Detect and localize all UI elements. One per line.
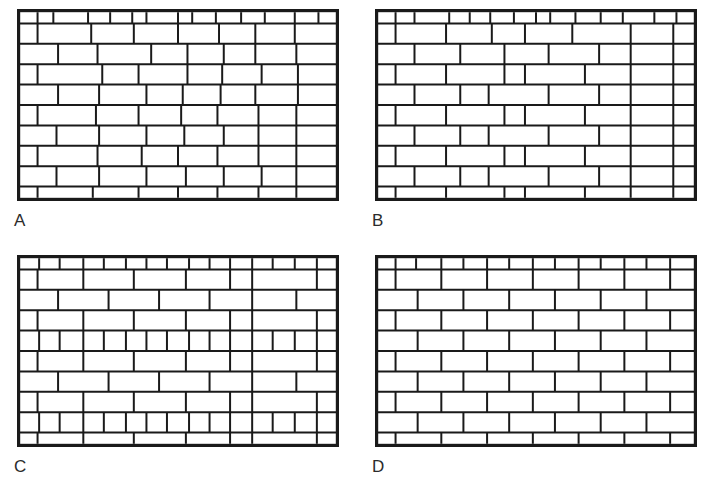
panel-label-a: A <box>14 212 26 229</box>
panel-label-b: B <box>372 212 384 229</box>
brick-panel-b <box>375 9 697 201</box>
wall-drawing-c <box>17 255 339 447</box>
brick-bond-figure: ABCD <box>0 0 713 490</box>
wall-drawing-a <box>17 9 339 201</box>
panel-label-d: D <box>372 458 385 475</box>
wall-drawing-d <box>375 255 697 447</box>
brick-panel-c <box>17 255 339 447</box>
brick-panel-a <box>17 9 339 201</box>
brick-panel-d <box>375 255 697 447</box>
panel-label-c: C <box>14 458 27 475</box>
wall-drawing-b <box>375 9 697 201</box>
